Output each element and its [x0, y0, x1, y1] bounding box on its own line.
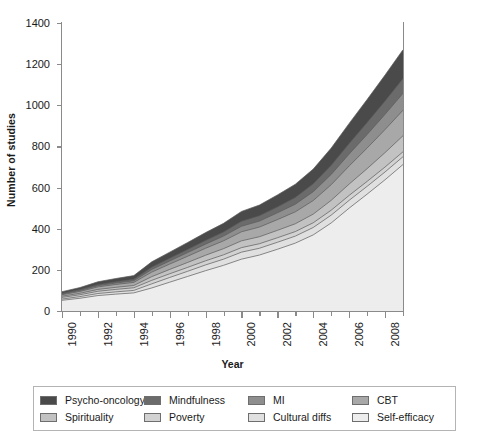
legend-item[interactable]: Psycho-oncology: [40, 395, 144, 406]
legend-item[interactable]: Poverty: [144, 412, 248, 423]
x-axis-line: [61, 311, 404, 312]
y-tick: 1000: [57, 105, 62, 106]
y-tick: 600: [57, 188, 62, 189]
legend-item[interactable]: Self-efficacy: [352, 412, 456, 423]
y-tick-label: 200: [32, 264, 50, 276]
x-tick-minor: [367, 312, 368, 316]
y-axis-title-label: Number of studies: [5, 113, 17, 207]
x-tick-label: 2004: [317, 322, 329, 346]
legend-item[interactable]: Spirituality: [40, 412, 144, 423]
x-tick-minor: [224, 312, 225, 316]
legend-item[interactable]: CBT: [352, 395, 456, 406]
legend-swatch: [352, 396, 369, 405]
y-tick-label: 600: [32, 182, 50, 194]
x-tick-major: [98, 312, 99, 318]
legend-item[interactable]: MI: [248, 395, 352, 406]
x-tick-label: 2006: [353, 322, 365, 346]
x-tick-major: [206, 312, 207, 318]
legend-item-label: CBT: [377, 395, 398, 406]
x-tick-major: [385, 312, 386, 318]
x-tick-minor: [116, 312, 117, 316]
legend-swatch: [248, 396, 265, 405]
x-tick-label: 1992: [102, 322, 114, 346]
legend-swatch: [40, 413, 57, 422]
legend-item-label: Self-efficacy: [377, 412, 434, 423]
x-tick-label: 2000: [245, 322, 257, 346]
chart-figure: Number of studies 0200400600800100012001…: [0, 0, 486, 445]
legend-row-1: Psycho-oncologyMindfulnessMICBT: [40, 392, 449, 409]
plot-right-spine: [403, 22, 404, 312]
x-tick-label: 1998: [210, 322, 222, 346]
x-tick-label: 2008: [389, 322, 401, 346]
legend-item-label: MI: [273, 395, 285, 406]
legend-item-label: Spirituality: [65, 412, 113, 423]
y-tick: 800: [57, 146, 62, 147]
stacked-area-series: [62, 23, 403, 311]
x-tick-minor: [331, 312, 332, 316]
x-tick-minor: [80, 312, 81, 316]
x-tick-major: [62, 312, 63, 318]
legend-swatch: [352, 413, 369, 422]
y-tick: 1400: [57, 23, 62, 24]
x-tick-major: [134, 312, 135, 318]
y-tick: 400: [57, 229, 62, 230]
x-tick-minor: [259, 312, 260, 316]
x-tick-major: [349, 312, 350, 318]
x-tick-major: [241, 312, 242, 318]
x-tick-major: [170, 312, 171, 318]
y-tick-label: 1000: [26, 99, 50, 111]
legend-item-label: Poverty: [169, 412, 205, 423]
legend-swatch: [248, 413, 265, 422]
legend-row-2: SpiritualityPovertyCultural diffsSelf-ef…: [40, 409, 449, 426]
y-tick-label: 0: [44, 305, 50, 317]
legend-item-label: Mindfulness: [169, 395, 225, 406]
x-axis-title-label: Year: [221, 358, 243, 370]
x-tick-major: [313, 312, 314, 318]
legend-item-label: Cultural diffs: [273, 412, 331, 423]
y-tick-label: 800: [32, 140, 50, 152]
y-tick: 200: [57, 270, 62, 271]
legend-swatch: [144, 413, 161, 422]
plot-area: 0200400600800100012001400 19901992199419…: [62, 23, 403, 311]
y-axis-line: [61, 22, 62, 312]
y-tick-label: 1200: [26, 58, 50, 70]
x-tick-label: 1996: [174, 322, 186, 346]
y-tick: 1200: [57, 64, 62, 65]
x-tick-minor: [188, 312, 189, 316]
x-tick-label: 1990: [66, 322, 78, 346]
x-tick-minor: [295, 312, 296, 316]
y-tick-label: 400: [32, 223, 50, 235]
y-axis-title: Number of studies: [0, 0, 22, 320]
legend-swatch: [144, 396, 161, 405]
x-tick-label: 1994: [138, 322, 150, 346]
legend-item[interactable]: Mindfulness: [144, 395, 248, 406]
x-axis-title: Year: [62, 358, 403, 370]
legend-swatch: [40, 396, 57, 405]
y-tick-label: 1400: [26, 17, 50, 29]
x-tick-minor: [403, 312, 404, 316]
x-tick-major: [277, 312, 278, 318]
legend-item-label: Psycho-oncology: [65, 395, 145, 406]
x-tick-label: 2002: [281, 322, 293, 346]
legend-item[interactable]: Cultural diffs: [248, 412, 352, 423]
x-tick-minor: [152, 312, 153, 316]
chart-legend: Psycho-oncologyMindfulnessMICBT Spiritua…: [33, 386, 456, 431]
